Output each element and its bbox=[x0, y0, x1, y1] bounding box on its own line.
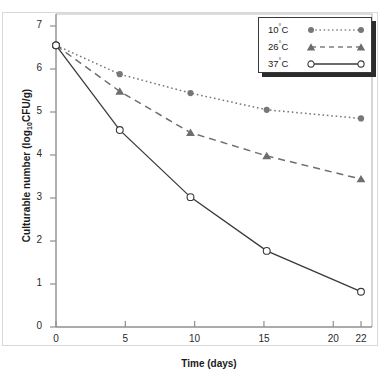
legend-label-37c: 37°C bbox=[259, 58, 307, 69]
data-point bbox=[358, 288, 365, 295]
legend-sample-10c bbox=[307, 22, 365, 38]
chart-figure: 01234567 0510152022 Culturable number (l… bbox=[0, 0, 391, 389]
x-axis-title: Time (days) bbox=[56, 358, 362, 369]
x-tick-label: 5 bbox=[114, 333, 136, 344]
x-tick-label: 10 bbox=[184, 333, 206, 344]
legend-label-10c: 10°C bbox=[259, 24, 307, 35]
legend-sample-37c bbox=[307, 56, 365, 72]
legend-sample-26c bbox=[307, 39, 365, 55]
x-tick-label: 0 bbox=[45, 333, 67, 344]
data-point bbox=[357, 175, 366, 182]
y-tick-label: 7 bbox=[26, 19, 42, 30]
y-axis-title-subscript: 10 bbox=[26, 122, 33, 130]
y-tick-label: 0 bbox=[26, 320, 42, 331]
legend-temp-10: 10 bbox=[268, 24, 279, 35]
legend-temp-37: 37 bbox=[268, 58, 279, 69]
x-tick-label: 15 bbox=[253, 333, 275, 344]
legend-temp-26: 26 bbox=[268, 41, 279, 52]
y-tick-label: 1 bbox=[26, 277, 42, 288]
legend-item-37c[interactable]: 37°C bbox=[259, 55, 371, 72]
legend-item-10c[interactable]: 10°C bbox=[259, 21, 371, 38]
data-point bbox=[116, 127, 123, 134]
y-axis-title-after: CFU/g) bbox=[21, 89, 32, 122]
legend-unit-26: C bbox=[281, 41, 288, 52]
x-tick-label: 20 bbox=[322, 333, 344, 344]
data-point bbox=[263, 247, 270, 254]
x-tick-label: 22 bbox=[350, 333, 372, 344]
data-point bbox=[53, 42, 60, 49]
y-axis-title: Culturable number (log10CFU/g) bbox=[21, 66, 32, 266]
data-point bbox=[262, 152, 271, 159]
legend-label-26c: 26°C bbox=[259, 41, 307, 52]
data-series-group bbox=[53, 42, 366, 295]
y-axis-title-before: Culturable number (log bbox=[21, 130, 32, 242]
data-point bbox=[187, 194, 194, 201]
legend-unit-37: C bbox=[281, 58, 288, 69]
data-point bbox=[264, 107, 270, 113]
chart-legend[interactable]: 10°C 26°C 37°C bbox=[258, 17, 372, 73]
legend-item-26c[interactable]: 26°C bbox=[259, 38, 371, 55]
data-point bbox=[187, 90, 193, 96]
data-point bbox=[358, 115, 364, 121]
data-point bbox=[117, 71, 123, 77]
data-point bbox=[186, 128, 195, 135]
legend-unit-10: C bbox=[281, 24, 288, 35]
